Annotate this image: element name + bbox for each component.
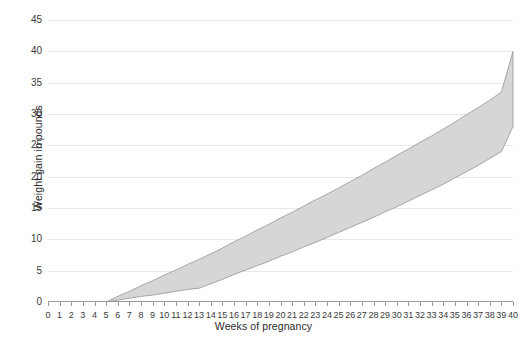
x-axis-tick <box>95 302 96 306</box>
x-axis-tick <box>513 302 514 306</box>
x-axis-tick <box>432 302 433 306</box>
x-axis-tick <box>362 302 363 306</box>
x-axis-tick <box>141 302 142 306</box>
x-axis-tick <box>211 302 212 306</box>
x-axis-tick <box>420 302 421 306</box>
y-axis-tick-label: 45 <box>4 15 42 25</box>
x-axis-tick <box>385 302 386 306</box>
x-axis-tick <box>443 302 444 306</box>
x-axis-tick <box>304 302 305 306</box>
y-axis-tick-label: 40 <box>4 46 42 56</box>
x-axis-tick <box>234 302 235 306</box>
x-axis-tick <box>374 302 375 306</box>
x-axis-tick <box>408 302 409 306</box>
y-axis-tick-label: 0 <box>4 297 42 307</box>
y-axis-tick-label: 10 <box>4 234 42 244</box>
y-axis-tick-label: 15 <box>4 203 42 213</box>
x-axis-title: Weeks of pregnancy <box>0 320 527 332</box>
band-polygon <box>106 51 513 302</box>
weight-gain-band <box>48 20 513 302</box>
x-axis-tick <box>176 302 177 306</box>
x-axis-tick <box>490 302 491 306</box>
x-axis-tick <box>83 302 84 306</box>
x-axis-tick <box>315 302 316 306</box>
x-axis-tick <box>118 302 119 306</box>
x-axis-tick-label: 40 <box>501 311 525 320</box>
x-axis-tick <box>327 302 328 306</box>
x-axis-tick <box>257 302 258 306</box>
x-axis-tick <box>478 302 479 306</box>
plot-area: 051015202530354045 012345678910111213141… <box>48 20 513 302</box>
x-axis-tick <box>467 302 468 306</box>
x-axis-tick <box>199 302 200 306</box>
x-axis-tick <box>397 302 398 306</box>
y-axis-title: Weight gain in pounds <box>32 68 44 248</box>
x-axis-tick <box>501 302 502 306</box>
x-axis-tick <box>269 302 270 306</box>
x-axis-tick <box>60 302 61 306</box>
y-axis-tick-label: 5 <box>4 266 42 276</box>
x-axis-tick <box>292 302 293 306</box>
x-axis-tick <box>71 302 72 306</box>
x-axis-tick <box>222 302 223 306</box>
y-axis-tick-label: 25 <box>4 140 42 150</box>
y-axis-tick-label: 30 <box>4 109 42 119</box>
x-axis-tick <box>106 302 107 306</box>
x-axis-tick <box>188 302 189 306</box>
weight-gain-chart: Weight gain in pounds 051015202530354045… <box>0 0 527 343</box>
x-axis-tick <box>48 302 49 306</box>
x-axis-tick <box>339 302 340 306</box>
x-axis-tick <box>153 302 154 306</box>
x-axis-tick <box>350 302 351 306</box>
y-axis-tick-label: 35 <box>4 78 42 88</box>
x-axis-tick <box>281 302 282 306</box>
y-axis-tick-label: 20 <box>4 172 42 182</box>
x-axis-tick <box>246 302 247 306</box>
x-axis-tick <box>129 302 130 306</box>
x-axis-tick <box>164 302 165 306</box>
x-axis-tick <box>455 302 456 306</box>
